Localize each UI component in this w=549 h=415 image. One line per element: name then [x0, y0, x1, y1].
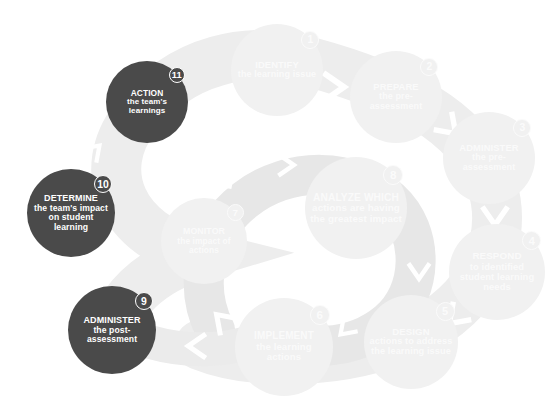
step-sub-1: the learning issue — [236, 70, 318, 80]
diagram-canvas: IDENTIFYthe learning issue1PREPAREthe pr… — [0, 0, 549, 415]
arrow-7-to-8 — [280, 156, 294, 175]
arrow-3-to-4 — [484, 209, 506, 225]
arrow-inner-upleft — [217, 165, 238, 186]
step-sub-10: the team's impact on student learning — [32, 204, 110, 232]
arrow-inner-lower — [334, 319, 355, 340]
arrow-10-outer — [84, 139, 105, 160]
arrow-1-to-2 — [326, 75, 344, 100]
step-number-badge-11: 11 — [169, 67, 185, 83]
arrow-spiral-lower — [188, 335, 203, 356]
step-sub-3: the pre-assessment — [448, 153, 530, 172]
step-sub-5: actions to address the learning issue — [369, 337, 453, 357]
arrow-6-to-7 — [209, 307, 235, 333]
step-sub-4: to identified student learning needs — [454, 262, 540, 292]
step-number-badge-5: 5 — [436, 302, 455, 321]
step-sub-8: actions are having the greatest impact — [310, 203, 402, 224]
arrow-11-outer — [202, 140, 225, 163]
step-sub-11: the team's learnings — [111, 98, 183, 115]
step-sub-9: the post-assessment — [73, 326, 151, 345]
step-number-badge-7: 7 — [227, 204, 244, 221]
step-number-badge-8: 8 — [383, 165, 403, 185]
step-sub-7: the impact of actions — [166, 237, 242, 255]
step-sub-6: the learning actions — [240, 342, 328, 363]
arrow-8-to-6 — [410, 265, 429, 279]
step-number-badge-6: 6 — [310, 305, 330, 325]
step-sub-2: the pre-assessment — [355, 92, 437, 111]
